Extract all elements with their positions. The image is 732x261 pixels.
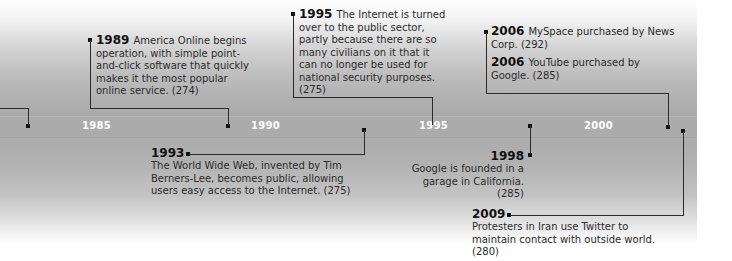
timeline-marker: [226, 124, 230, 128]
connector-line: [432, 97, 433, 125]
event-year: 1989: [96, 33, 129, 47]
event-2009: 2009Protesters in Iran use Twitter to ma…: [472, 208, 672, 259]
axis-tick-2000: 2000: [584, 120, 613, 131]
event-year: 1998: [400, 150, 524, 163]
connector-line: [668, 93, 669, 127]
event-text: The Internet is turned over to the publi…: [299, 9, 445, 95]
connector-line: [293, 97, 433, 98]
event-text: Protesters in Iran use Twitter to mainta…: [472, 221, 655, 257]
connector-line: [486, 93, 669, 94]
event-2006-myspace: 2006MySpace purchased by News Corp. (292…: [491, 25, 681, 51]
connector-line: [0, 108, 29, 109]
connector-line: [486, 32, 487, 93]
timeline-marker: [666, 125, 670, 129]
connector-line: [90, 40, 91, 108]
event-year: 2006: [491, 55, 524, 69]
connector-line: [90, 108, 229, 109]
event-year: 1993: [151, 147, 366, 160]
connector-line: [530, 126, 531, 155]
connector-line: [293, 14, 294, 97]
event-1995: 1995The Internet is turned over to the p…: [299, 8, 449, 97]
event-year: 1995: [299, 7, 332, 21]
axis-tick-1990: 1990: [251, 120, 280, 131]
event-year: 2006: [491, 24, 524, 38]
timeline-marker: [26, 124, 30, 128]
connector-line: [683, 131, 684, 216]
event-2006-youtube: 2006YouTube purchased by Google. (285): [491, 56, 681, 82]
event-marker: [528, 153, 532, 157]
event-year: 2009: [472, 208, 672, 221]
axis-tick-1995: 1995: [419, 120, 448, 131]
event-1998: 1998Google is founded in a garage in Cal…: [400, 150, 524, 201]
event-text: The World Wide Web, invented by Tim Bern…: [151, 160, 350, 196]
event-1993: 1993The World Wide Web, invented by Tim …: [151, 147, 366, 198]
event-text: Google is founded in a garage in Califor…: [412, 163, 524, 199]
axis-tick-1985: 1985: [82, 120, 111, 131]
event-1989: 1989America Online begins operation, wit…: [96, 34, 256, 98]
